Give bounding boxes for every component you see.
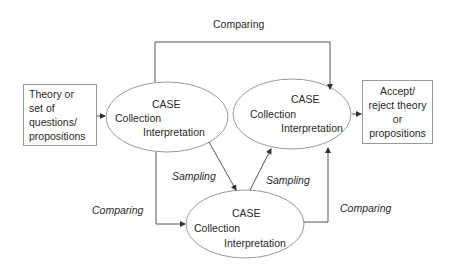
end-box-line: propositions bbox=[363, 126, 432, 140]
label-right-comparing: Comparing bbox=[340, 203, 391, 214]
end-box-accept-reject: Accept/ reject theory or propositions bbox=[362, 80, 433, 144]
start-box-line: set of bbox=[29, 101, 96, 115]
end-box-line: Accept/ bbox=[363, 84, 432, 98]
start-box-line: propositions bbox=[29, 129, 96, 143]
case3-interpretation: Interpretation bbox=[224, 238, 286, 249]
arrow-top-comparing bbox=[155, 42, 330, 89]
arrow-sampling-case1-to-case3 bbox=[209, 142, 236, 190]
arrow-left-comparing bbox=[156, 152, 185, 224]
start-box-line: Theory or bbox=[29, 87, 96, 101]
case1-interpretation: Interpretation bbox=[143, 127, 205, 138]
start-box-theory: Theory or set of questions/ propositions bbox=[23, 84, 97, 146]
label-sampling-left: Sampling bbox=[172, 171, 216, 182]
end-box-line: or bbox=[363, 112, 432, 126]
case2-title: CASE bbox=[291, 94, 320, 105]
case2-interpretation: Interpretation bbox=[281, 123, 343, 134]
case3-title: CASE bbox=[232, 208, 261, 219]
start-box-line: questions/ bbox=[29, 115, 96, 129]
case3-collection: Collection bbox=[194, 223, 240, 234]
label-sampling-right: Sampling bbox=[266, 175, 310, 186]
label-left-comparing: Comparing bbox=[92, 205, 143, 216]
case2-collection: Collection bbox=[250, 109, 296, 120]
case1-collection: Collection bbox=[115, 113, 161, 124]
end-box-line: reject theory bbox=[363, 98, 432, 112]
label-top-comparing: Comparing bbox=[213, 19, 264, 30]
case1-title: CASE bbox=[152, 99, 181, 110]
